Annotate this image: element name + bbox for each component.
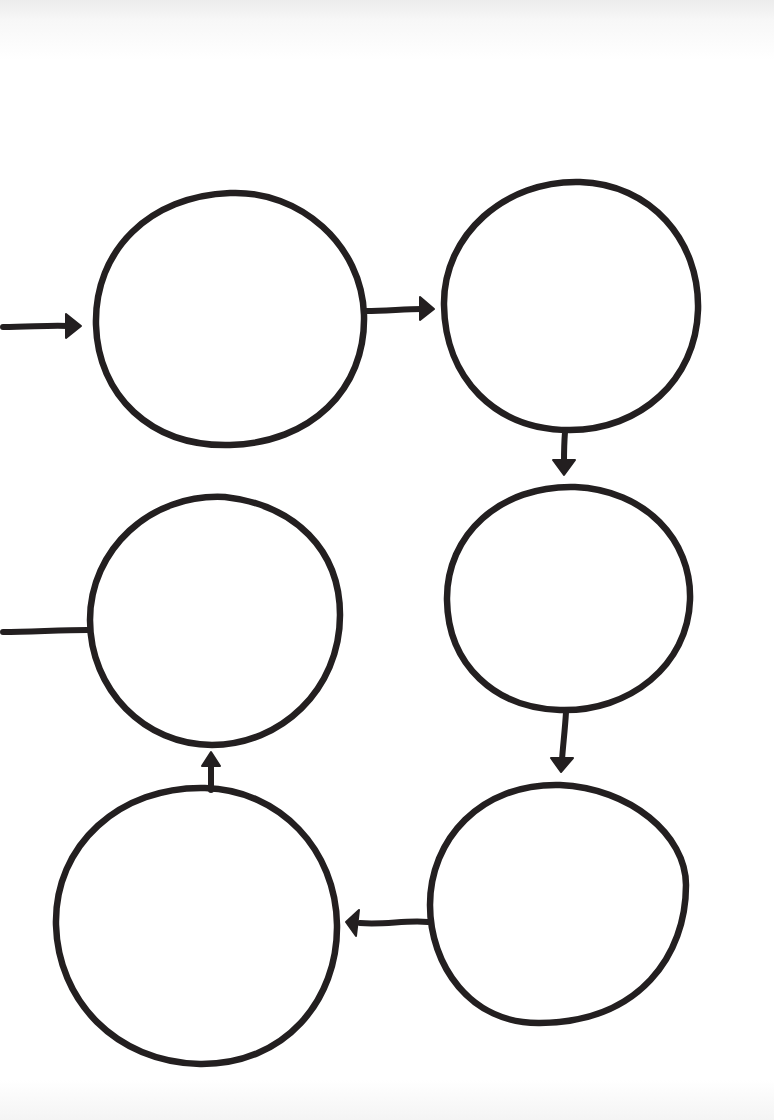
edge-n4-n6 <box>551 712 573 772</box>
edge-n6-n5 <box>346 910 428 936</box>
node-n4 <box>447 487 690 710</box>
edge-n2-n4 <box>553 432 575 475</box>
arrow-left-icon <box>346 910 359 936</box>
arrow-down-icon <box>553 460 575 475</box>
arrow-down-icon <box>551 758 573 772</box>
edge-input-n1 <box>3 314 81 338</box>
edge-n5-n3 <box>202 752 220 790</box>
node-n3 <box>90 497 340 745</box>
node-n6 <box>430 785 686 1023</box>
arrow-up-icon <box>202 752 220 766</box>
node-n2 <box>444 182 698 430</box>
node-n5 <box>56 788 337 1064</box>
flow-diagram <box>0 0 774 1120</box>
edge-n3-output <box>3 630 88 632</box>
arrow-right-icon <box>420 297 434 320</box>
node-n1 <box>96 193 364 445</box>
arrow-right-icon <box>66 314 81 338</box>
edge-n1-n2 <box>366 297 434 320</box>
